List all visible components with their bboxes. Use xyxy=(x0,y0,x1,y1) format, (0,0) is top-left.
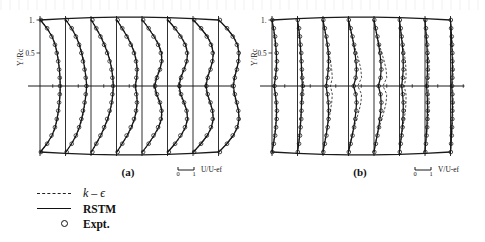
figure-root: 1.0.5(a)01U/U-ef1.0.5(b)01V/U-ef Y/Rc Y/… xyxy=(0,0,485,242)
legend-label-rstm: RSTM xyxy=(74,203,116,215)
duct-wall-top xyxy=(40,17,219,20)
legend-label-expt: Expt. xyxy=(74,218,110,230)
panel-label-b: (b) xyxy=(353,166,367,179)
solid-line-icon xyxy=(34,208,74,209)
x-axis-title-b: V/U-ef xyxy=(438,165,459,174)
x-scale-min-label: 0 xyxy=(413,170,416,177)
legend: k – ϵ RSTM Expt. xyxy=(34,186,184,231)
y-axis-tick-label: 0.5 xyxy=(26,50,35,58)
dashed-line-icon xyxy=(34,193,74,194)
legend-item-k-epsilon: k – ϵ xyxy=(34,186,184,201)
y-axis-tick-label: 1. xyxy=(29,17,35,25)
y-axis-title-panel-b: Y/Rc xyxy=(250,48,259,66)
legend-label-k-epsilon: k – ϵ xyxy=(74,186,105,201)
x-scale-min-label: 0 xyxy=(176,170,179,177)
legend-item-expt: Expt. xyxy=(34,216,184,231)
y-axis-tick-label: 1. xyxy=(261,17,267,25)
x-scale-max-label: 1 xyxy=(192,170,195,177)
open-circle-icon xyxy=(34,220,74,227)
panel-label-a: (a) xyxy=(122,166,135,179)
y-axis-title-panel-a: Y/Rc xyxy=(16,48,25,66)
legend-item-rstm: RSTM xyxy=(34,201,184,216)
duct-wall-bottom xyxy=(40,152,219,155)
x-axis-title-a: U/U-ef xyxy=(201,165,222,174)
x-scale-max-label: 1 xyxy=(429,170,432,177)
